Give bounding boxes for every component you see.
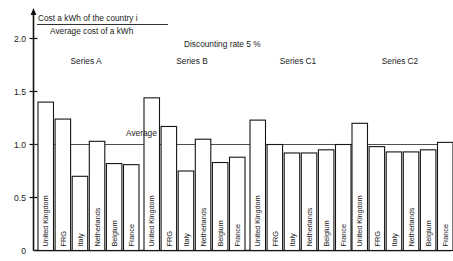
bar-country-label: Italy — [182, 233, 191, 246]
bar-country-label: France — [441, 224, 450, 246]
series-label: Series B — [176, 56, 208, 66]
bar-country-label: France — [127, 224, 136, 246]
y-tick-label: 1.0 — [14, 140, 26, 150]
title-denominator: Average cost of a kWh — [50, 26, 134, 36]
bar-group: United KingdomFRGItalyNetherlandsBelgium… — [144, 98, 245, 251]
series-labels: Series ASeries BSeries C1Series C2 — [71, 56, 419, 66]
discount-rate-label: Discounting rate 5 % — [184, 39, 261, 49]
bar-country-label: United Kingdom — [355, 195, 364, 246]
bar-country-label: FRG — [271, 231, 280, 247]
bar-country-label: Italy — [288, 233, 297, 246]
y-tick-label: 1.5 — [14, 87, 26, 97]
bar-country-label: Italy — [76, 233, 85, 246]
bar-country-label: United Kingdom — [253, 195, 262, 246]
bar-country-label: France — [339, 224, 348, 246]
y-axis-arrow — [31, 8, 37, 15]
bar-country-label: United Kingdom — [41, 195, 50, 246]
bar-country-label: FRG — [373, 231, 382, 247]
average-label: Average — [126, 128, 157, 138]
bar-country-label: Netherlands — [407, 207, 416, 246]
bar-country-label: Italy — [390, 233, 399, 246]
series-label: Series C1 — [280, 56, 317, 66]
chart-title: Cost a kWh of the country i Average cost… — [37, 13, 168, 36]
bar-chart: 00.51.01.52.0 United KingdomFRGItalyNeth… — [0, 0, 453, 261]
bar-country-label: Netherlands — [93, 207, 102, 246]
series-label: Series A — [71, 56, 102, 66]
bar-country-label: Belgium — [216, 220, 225, 246]
y-tick-label: 0.5 — [14, 193, 26, 203]
bar-country-label: FRG — [165, 231, 174, 247]
bar-country-label: Netherlands — [199, 207, 208, 246]
bar-country-label: Belgium — [424, 220, 433, 246]
bar-group: United KingdomFRGItalyNetherlandsBelgium… — [250, 120, 351, 250]
bar[interactable] — [55, 119, 71, 250]
title-numerator: Cost a kWh of the country i — [38, 13, 138, 23]
series-label: Series C2 — [382, 56, 419, 66]
bar-country-label: United Kingdom — [147, 195, 156, 246]
bar-country-label: Netherlands — [305, 207, 314, 246]
bar-country-label: France — [233, 224, 242, 246]
bar-group: United KingdomFRGItalyNetherlandsBelgium… — [38, 102, 139, 250]
bar-country-label: Belgium — [322, 220, 331, 246]
bar-country-label: FRG — [59, 231, 68, 247]
y-tick-label: 0 — [21, 246, 26, 256]
bar-groups: United KingdomFRGItalyNetherlandsBelgium… — [38, 98, 453, 251]
y-tick-label: 2.0 — [14, 34, 26, 44]
bar-country-label: Belgium — [110, 220, 119, 246]
bar-group: United KingdomFRGItalyNetherlandsBelgium… — [352, 123, 453, 250]
